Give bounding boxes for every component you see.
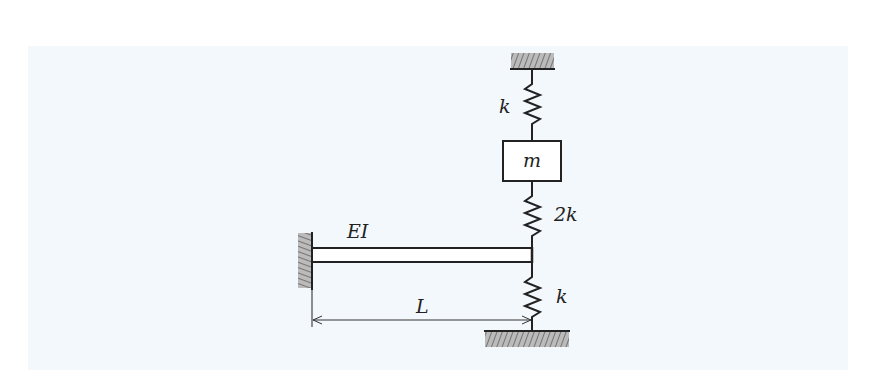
middle-spring xyxy=(525,181,540,252)
length-label: L xyxy=(415,295,429,317)
top-spring-label: k xyxy=(499,95,511,117)
middle-spring-label: 2k xyxy=(553,203,578,225)
ceiling-support xyxy=(510,53,555,69)
bottom-spring-label: k xyxy=(556,285,568,307)
wall-support xyxy=(298,232,312,290)
mass-label: m xyxy=(523,149,541,171)
beam-rigidity-label: EI xyxy=(346,220,369,242)
top-spring xyxy=(525,69,540,141)
cantilever-beam xyxy=(312,247,532,263)
vibration-system-diagram: k m 2k EI k L xyxy=(0,0,870,382)
ground-support xyxy=(484,331,570,347)
